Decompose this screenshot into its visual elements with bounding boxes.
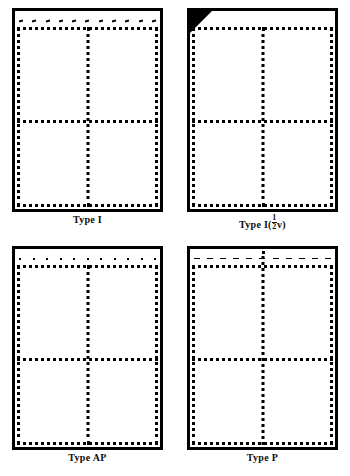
tick-mark [220,258,226,259]
tick-mark [286,258,292,259]
panel-type-i-half-v: Type I(12v) [175,0,350,238]
tick-mark [207,258,213,259]
panel-type-i: Type I [0,0,175,238]
tick-mark [100,258,102,260]
tick-mark [72,19,76,22]
horizontal-divider [192,120,333,123]
tick-mark [32,19,36,22]
vertical-divider [261,27,264,207]
tick-mark [141,258,143,260]
tick-mark [73,258,75,260]
panel-caption: Type AP [0,452,175,464]
tick-mark [59,19,63,22]
tick-mark [85,19,89,22]
horizontal-divider [17,358,158,361]
vertical-divider [86,27,89,207]
tick-mark [325,258,331,259]
horizontal-divider [17,120,158,123]
tick-mark [259,258,265,259]
tick-row [194,254,331,263]
tick-mark [33,258,35,260]
tick-mark [152,19,156,22]
horizontal-divider [192,358,333,361]
plot-area [190,11,335,209]
tick-mark [233,258,239,259]
tick-mark [312,258,318,259]
panel-frame [12,246,163,450]
panel-type-p: Type P [175,238,350,476]
panel-frame [187,8,338,212]
panel-frame [12,8,163,212]
tick-mark [273,258,279,259]
caption-suffix: v) [277,219,286,230]
tick-mark [45,19,49,22]
panel-caption: Type I(12v) [175,214,350,231]
panel-frame [187,246,338,450]
tick-mark [19,19,23,22]
plot-area [15,11,160,209]
tick-mark [60,258,62,260]
tick-mark [99,19,103,22]
panel-caption: Type I [0,214,175,226]
tick-mark [46,258,48,260]
panel-type-ap: Type AP [0,238,175,476]
figure-root: Type I Type I(12v) [0,0,350,476]
tick-mark [139,19,143,22]
tick-mark [114,258,116,260]
tick-mark [87,258,89,260]
plot-area [15,249,160,447]
tick-row [19,16,156,25]
tick-mark [112,19,116,22]
caption-prefix: Type I( [239,219,272,230]
tick-row [19,254,156,263]
tick-mark [19,258,21,260]
vertical-divider [261,251,264,445]
tick-mark [194,258,200,259]
plot-area [190,249,335,447]
tick-mark [127,258,129,260]
tick-mark [125,19,129,22]
tick-mark [246,258,252,259]
tick-mark [154,258,156,260]
vertical-divider [86,265,89,445]
panel-grid: Type I Type I(12v) [0,0,350,476]
tick-mark [299,258,305,259]
panel-caption: Type P [175,452,350,464]
